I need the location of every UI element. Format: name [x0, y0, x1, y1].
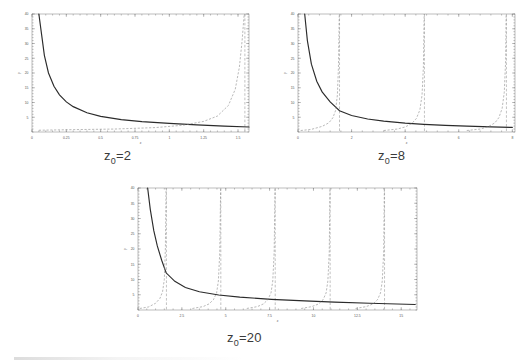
plot-panel-z0-20: 02.557.51012.515510152025303540xy — [112, 180, 424, 328]
dashed-curve — [301, 188, 330, 308]
y-tick-label: 10 — [131, 278, 135, 282]
caption-suffix-z0-8: =8 — [390, 148, 405, 163]
plot-panel-z0-8: 02468510152025303540xy — [272, 6, 522, 146]
x-tick-label: 0 — [31, 136, 33, 140]
y-tick-label: 35 — [25, 27, 29, 31]
dashed-curve — [467, 14, 506, 131]
x-tick-label: 0 — [297, 136, 299, 140]
y-tick-label: 15 — [25, 86, 29, 90]
caption-suffix-z0-20: =20 — [239, 330, 262, 345]
y-tick-label: 20 — [25, 71, 29, 75]
dashed-curve — [39, 14, 244, 130]
y-tick-label: 10 — [25, 101, 29, 105]
y-tick-label: 20 — [291, 71, 295, 75]
x-tick-label: 1.25 — [200, 136, 207, 140]
y-tick-label: 40 — [291, 12, 295, 16]
dashed-curve — [247, 188, 275, 308]
x-tick-label: 0 — [137, 314, 139, 318]
y-tick-label: 25 — [25, 57, 29, 61]
y-tick-label: 25 — [131, 232, 135, 236]
y-axis-label: y — [123, 248, 127, 251]
y-tick-label: 35 — [131, 202, 135, 206]
x-tick-label: 8 — [511, 136, 513, 140]
x-tick-label: 6 — [458, 136, 460, 140]
caption-text-z0-8: z — [378, 148, 385, 163]
dashed-curve — [140, 188, 166, 308]
plot-frame — [138, 188, 417, 310]
solid-curve — [39, 14, 249, 127]
y-tick-label: 20 — [131, 247, 135, 251]
solid-curve — [148, 188, 416, 305]
x-tick-label: 5 — [225, 314, 227, 318]
x-tick-label: 0.5 — [98, 136, 103, 140]
x-tick-label: 7.5 — [267, 314, 272, 318]
caption-text-z0-2: z — [104, 148, 111, 163]
y-axis-label: y — [17, 72, 21, 75]
y-tick-label: 40 — [25, 12, 29, 16]
y-tick-label: 15 — [291, 86, 295, 90]
x-tick-label: 10 — [312, 314, 316, 318]
plot-frame — [32, 14, 249, 132]
y-tick-label: 5 — [27, 116, 29, 120]
y-tick-label: 30 — [291, 42, 295, 46]
x-tick-label: 1 — [168, 136, 170, 140]
y-tick-label: 10 — [291, 101, 295, 105]
x-tick-label: 12.5 — [354, 314, 361, 318]
y-axis-label: y — [283, 72, 287, 75]
plot-svg-z0-2: 00.250.50.7511.251.5510152025303540xy — [6, 6, 256, 146]
caption-suffix-z0-2: =2 — [116, 148, 131, 163]
x-axis-label: x — [139, 141, 142, 145]
plot-frame — [298, 14, 515, 132]
scan-artifact-line — [14, 357, 244, 360]
plot-panel-z0-2: 00.250.50.7511.251.5510152025303540xy — [6, 6, 256, 146]
y-tick-label: 30 — [131, 217, 135, 221]
plot-caption-z0-2: z0=2 — [104, 148, 131, 166]
caption-text-z0-20: z — [227, 330, 234, 345]
plot-svg-z0-8: 02468510152025303540xy — [272, 6, 522, 146]
y-tick-label: 30 — [25, 42, 29, 46]
plot-caption-z0-8: z0=8 — [378, 148, 405, 166]
x-tick-label: 0.75 — [132, 136, 139, 140]
dashed-curve — [356, 188, 385, 308]
x-tick-label: 15 — [399, 314, 403, 318]
plot-caption-z0-20: z0=20 — [227, 330, 262, 348]
y-tick-label: 5 — [293, 116, 295, 120]
x-tick-label: 4 — [404, 136, 406, 140]
x-axis-label: x — [405, 141, 408, 145]
x-axis-label: x — [276, 319, 279, 323]
plot-svg-z0-20: 02.557.51012.515510152025303540xy — [112, 180, 424, 328]
y-tick-label: 25 — [291, 57, 295, 61]
x-tick-label: 0.25 — [63, 136, 70, 140]
dashed-curve — [384, 14, 424, 131]
y-tick-label: 15 — [131, 263, 135, 267]
x-tick-label: 2.5 — [180, 314, 185, 318]
y-tick-label: 40 — [131, 186, 135, 190]
y-tick-label: 35 — [291, 27, 295, 31]
y-tick-label: 5 — [133, 293, 135, 297]
x-tick-label: 2 — [351, 136, 353, 140]
x-tick-label: 1.5 — [236, 136, 241, 140]
